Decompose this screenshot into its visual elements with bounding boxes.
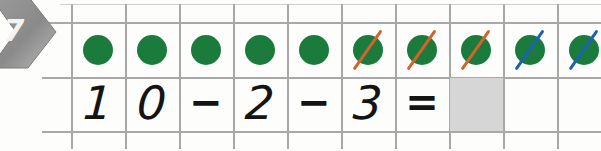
equation-cell-7[interactable]: = (395, 77, 449, 132)
counter-cell-7[interactable] (395, 22, 449, 77)
equation-glyph: 1 (82, 80, 114, 126)
counter-cell-4[interactable] (233, 22, 287, 77)
counter-cell-9[interactable] (503, 22, 557, 77)
equation-cell-2[interactable]: 0 (125, 77, 179, 132)
equation-cell-1[interactable]: 1 (71, 77, 125, 132)
equation-glyph: 3 (352, 80, 384, 126)
counter-cell-3[interactable] (179, 22, 233, 77)
counter-cell-1[interactable] (71, 22, 125, 77)
grid-hline-top-faint (60, 4, 601, 5)
counter-cell-5[interactable] (287, 22, 341, 77)
equation-glyph: 2 (244, 80, 276, 126)
exercise-number-label: 7 (0, 16, 32, 46)
green-counter-icon (191, 35, 221, 65)
green-counter-icon (137, 35, 167, 65)
equation-glyph: 0 (136, 80, 168, 126)
counter-cell-6[interactable] (341, 22, 395, 77)
green-counter-icon (299, 35, 329, 65)
equation-cell-4[interactable]: 2 (233, 77, 287, 132)
equation-cell-5[interactable]: − (287, 77, 341, 132)
counter-cell-8[interactable] (449, 22, 503, 77)
minus-operator: − (189, 82, 223, 122)
counter-cell-10[interactable] (557, 22, 601, 77)
math-worksheet-exercise: 1 0 − 2 − 3 = (0, 0, 601, 151)
green-counter-icon (245, 35, 275, 65)
equals-operator: = (405, 82, 439, 122)
green-counter-icon (83, 35, 113, 65)
equation-cell-6[interactable]: 3 (341, 77, 395, 132)
counter-cell-2[interactable] (125, 22, 179, 77)
equation-cell-8-answer[interactable] (449, 77, 503, 132)
equation-cell-10[interactable] (557, 77, 601, 132)
equation-cell-9[interactable] (503, 77, 557, 132)
minus-operator: − (297, 82, 331, 122)
equation-cell-3[interactable]: − (179, 77, 233, 132)
exercise-number-badge: 7 (0, 0, 60, 76)
